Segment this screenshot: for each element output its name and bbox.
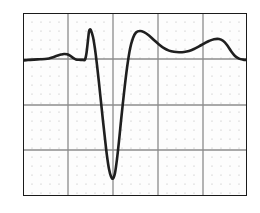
figure-caption: [0, 0, 1, 1]
ecg-chart-svg: [23, 13, 247, 196]
ecg-figure-root: [0, 0, 260, 213]
ecg-paper-frame: [23, 13, 247, 196]
